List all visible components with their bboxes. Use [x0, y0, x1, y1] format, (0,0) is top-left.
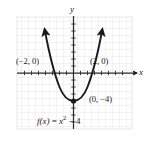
function-equation-label: f(x) = x2 − 4: [37, 117, 80, 126]
vertex-label: (0, −4): [89, 95, 112, 104]
vertex-point-marker: [71, 98, 76, 103]
root-positive-label: (2, 0): [90, 57, 108, 66]
root-negative-label: (−2, 0): [16, 57, 39, 66]
equation-equals-sign: =: [50, 116, 60, 126]
equation-constant-term: − 4: [66, 116, 80, 126]
x-axis-label: x: [139, 68, 143, 77]
equation-argument: (x): [40, 116, 50, 126]
y-axis-label: y: [70, 5, 74, 14]
quadratic-graph-figure: y x (−2, 0) (2, 0) (0, −4) f(x) = x2 − 4: [0, 0, 150, 141]
